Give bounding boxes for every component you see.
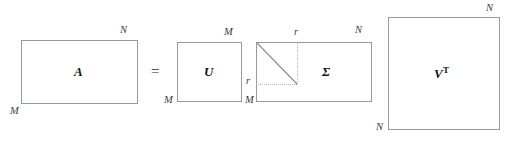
sigma-diagonal-line [256,42,298,85]
svd-diagram: A N M = U M M Σ N M r r VT N N [0,0,515,145]
matrix-vt-dim-n-bottom: N [376,121,383,132]
equals-sign: = [151,63,159,80]
matrix-a-dim-n: N [120,24,127,35]
matrix-u-dim-m-left: M [164,94,173,105]
matrix-a-dim-m: M [10,105,19,116]
matrix-sigma-rank-top: r [294,26,298,37]
matrix-sigma-dim-m: M [245,94,254,105]
matrix-vt-dim-n-top: N [486,2,493,13]
matrix-u-label: U [204,64,214,80]
matrix-vt-label: VT [434,65,449,82]
matrix-vt-transpose-superscript: T [443,65,449,75]
matrix-a-label: A [74,64,83,80]
matrix-u-dim-m-top: M [224,26,233,37]
matrix-sigma-dim-n: N [355,24,362,35]
matrix-vt-label-base: V [434,66,443,81]
matrix-sigma-label: Σ [322,64,330,80]
matrix-sigma-rank-left: r [246,75,250,86]
